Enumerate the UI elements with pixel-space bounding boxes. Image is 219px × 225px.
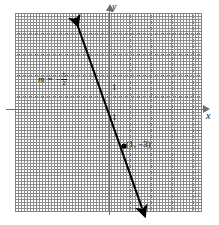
point-annotation: (1, −3): [126, 139, 151, 149]
plotted-line: [75, 18, 142, 208]
plot-overlay: [0, 0, 219, 225]
slope-fraction: 52: [61, 72, 67, 88]
slope-denominator: 2: [61, 80, 67, 87]
slope-prefix: m = −: [38, 74, 61, 84]
slope-annotation: m = −52: [38, 72, 67, 88]
graph-figure: y x 1 1 m = −52 (1, −3): [0, 0, 219, 225]
